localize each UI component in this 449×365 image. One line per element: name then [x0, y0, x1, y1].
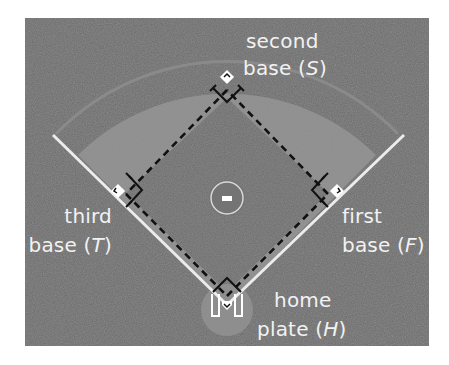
label-prefix: plate ( — [257, 317, 323, 341]
baseball-field-diagram — [0, 0, 449, 365]
home-plate-label: home plate (H) — [257, 286, 346, 344]
label-suffix: ) — [104, 233, 112, 257]
label-variable: T — [92, 233, 104, 257]
label-suffix: ) — [417, 233, 425, 257]
label-prefix: base ( — [342, 233, 405, 257]
first-base-label-line1: first — [342, 202, 425, 231]
label-prefix: base ( — [29, 233, 92, 257]
label-prefix: base ( — [243, 56, 306, 80]
third-base-label-line2: base (T) — [28, 231, 112, 260]
first-base-label: first base (F) — [342, 202, 425, 260]
third-base-label-line1: third — [28, 202, 112, 231]
home-plate-label-line2: plate (H) — [257, 315, 346, 344]
home-plate-label-line1: home — [257, 286, 346, 315]
first-base-label-line2: base (F) — [342, 231, 425, 260]
third-base-label: third base (T) — [28, 202, 112, 260]
second-base-label: second base (S) — [243, 28, 327, 82]
second-base-label-line1: second — [243, 28, 327, 55]
label-suffix: ) — [319, 56, 327, 80]
label-variable: H — [323, 317, 338, 341]
second-base-label-line2: base (S) — [243, 55, 327, 82]
pitchers-mound — [209, 180, 245, 216]
label-variable: F — [405, 233, 417, 257]
label-variable: S — [306, 56, 319, 80]
label-suffix: ) — [338, 317, 346, 341]
